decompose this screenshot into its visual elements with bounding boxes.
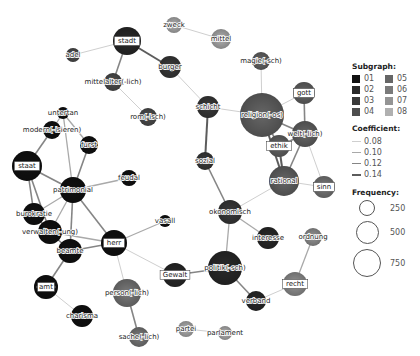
node-label: interesse bbox=[252, 234, 284, 242]
node-modern[interactable]: modern(-isieren) bbox=[23, 121, 82, 139]
node-label: Gewalt bbox=[163, 271, 188, 279]
legend-panel: Subgraph: 0105020603070408 Coefficient: … bbox=[352, 62, 420, 282]
node-adel[interactable]: adel bbox=[66, 48, 81, 62]
coefficient-legend-item: 0.12 bbox=[352, 158, 420, 169]
frequency-circle-sample bbox=[353, 249, 381, 277]
node-label: furst bbox=[81, 141, 97, 149]
frequency-label: 500 bbox=[390, 228, 405, 237]
node-label: verwalten(-ung) bbox=[22, 228, 78, 236]
subgraph-label: 04 bbox=[364, 107, 374, 116]
node-recht[interactable]: recht bbox=[282, 272, 308, 296]
node-verband[interactable]: verband bbox=[242, 291, 271, 311]
node-sozial[interactable]: sozial bbox=[195, 152, 215, 170]
frequency-legend-item: 500 bbox=[352, 221, 420, 244]
node-label: sinn bbox=[317, 183, 331, 191]
node-sache[interactable]: sache(-lich) bbox=[119, 327, 160, 347]
coefficient-legend-item: 0.10 bbox=[352, 147, 420, 158]
node-feudal[interactable]: feudal bbox=[118, 170, 140, 186]
node-label: schicht bbox=[196, 103, 221, 111]
node-mittel[interactable]: mittel bbox=[211, 29, 232, 49]
node-label: gott bbox=[297, 89, 311, 97]
node-gott[interactable]: gott bbox=[293, 82, 315, 104]
node-label: recht bbox=[286, 280, 304, 288]
coefficient-legend-item: 0.08 bbox=[352, 136, 420, 147]
node-label: rom(-isch) bbox=[130, 113, 166, 121]
node-label: person(-lich) bbox=[105, 289, 149, 297]
node-label: zweck bbox=[163, 21, 186, 29]
subgraph-legend-item-04: 04 bbox=[352, 107, 385, 116]
node-zweck[interactable]: zweck bbox=[163, 17, 186, 33]
node-staat[interactable]: staat bbox=[12, 151, 42, 181]
coefficient-line-sample bbox=[352, 152, 361, 153]
node-charisma[interactable]: charisma bbox=[66, 305, 98, 327]
node-person[interactable]: person(-lich) bbox=[105, 279, 149, 307]
node-label: amt bbox=[39, 283, 53, 291]
subgraph-legend-item-08: 08 bbox=[385, 107, 418, 116]
node-magie[interactable]: magie(-sch) bbox=[240, 52, 282, 70]
subgraph-label: 06 bbox=[397, 85, 407, 94]
node-gewalt[interactable]: Gewalt bbox=[160, 263, 190, 287]
frequency-circle-sample bbox=[359, 200, 375, 216]
node-label: staat bbox=[18, 162, 36, 170]
frequency-legend-item: 250 bbox=[352, 200, 420, 216]
node-burger[interactable]: burger bbox=[158, 56, 181, 78]
node-label: verband bbox=[242, 297, 271, 305]
node-label: religion(-os) bbox=[241, 111, 283, 119]
node-sinn[interactable]: sinn bbox=[313, 176, 335, 198]
node-label: sozial bbox=[195, 157, 215, 165]
subgraph-label: 02 bbox=[364, 85, 374, 94]
node-partei[interactable]: partei bbox=[176, 321, 197, 337]
frequency-legend-title: Frequency: bbox=[352, 188, 420, 197]
subgraph-swatch bbox=[352, 86, 360, 94]
node-label: politik(-sch) bbox=[204, 264, 246, 272]
coefficient-legend: 0.080.100.120.14 bbox=[352, 136, 420, 180]
nodes-layer: stadtadelmittelalter(-lich)burgerzweckmi… bbox=[12, 17, 335, 347]
node-label: parlament bbox=[207, 329, 243, 337]
node-furst[interactable]: furst bbox=[80, 136, 98, 154]
coefficient-line-sample bbox=[352, 174, 361, 176]
node-label: ethik bbox=[270, 142, 288, 150]
frequency-legend-item: 750 bbox=[352, 249, 420, 277]
subgraph-swatch bbox=[352, 97, 360, 105]
subgraph-swatch bbox=[385, 108, 393, 116]
node-label: sache(-lich) bbox=[119, 333, 160, 341]
subgraph-legend-item-03: 03 bbox=[352, 96, 385, 105]
node-label: mittel bbox=[211, 35, 232, 43]
node-label: modern(-isieren) bbox=[23, 126, 82, 134]
subgraph-legend-item-06: 06 bbox=[385, 85, 418, 94]
subgraph-legend-item-02: 02 bbox=[352, 85, 385, 94]
subgraph-swatch bbox=[385, 97, 393, 105]
node-stadt[interactable]: stadt bbox=[113, 27, 141, 55]
coefficient-label: 0.14 bbox=[364, 170, 382, 179]
node-label: untertan bbox=[48, 109, 78, 117]
node-welt[interactable]: welt(-lich) bbox=[288, 121, 323, 147]
subgraph-swatch bbox=[385, 86, 393, 94]
node-label: adel bbox=[66, 51, 81, 59]
node-parlament[interactable]: parlament bbox=[207, 326, 243, 340]
subgraph-swatch bbox=[385, 75, 393, 83]
node-label: herr bbox=[107, 239, 121, 247]
subgraph-swatch bbox=[352, 108, 360, 116]
node-politik[interactable]: politik(-sch) bbox=[204, 251, 246, 285]
node-label: vasall bbox=[155, 217, 175, 225]
subgraph-label: 05 bbox=[397, 74, 407, 83]
node-ordnung[interactable]: ordnung bbox=[298, 228, 327, 246]
node-rational[interactable]: rational bbox=[269, 166, 299, 196]
coefficient-label: 0.10 bbox=[364, 148, 382, 157]
node-untertan[interactable]: untertan bbox=[48, 107, 78, 119]
node-herr[interactable]: herr bbox=[101, 230, 127, 256]
frequency-circle-sample bbox=[356, 221, 379, 244]
node-label: welt(-lich) bbox=[288, 130, 323, 138]
node-label: okonomisch bbox=[209, 208, 251, 216]
node-religion[interactable]: religion(-os) bbox=[240, 93, 284, 137]
node-schicht[interactable]: schicht bbox=[196, 96, 221, 118]
node-vasall[interactable]: vasall bbox=[155, 215, 175, 227]
node-label: magie(-sch) bbox=[240, 57, 282, 65]
node-rom[interactable]: rom(-isch) bbox=[130, 108, 166, 126]
node-label: charisma bbox=[66, 312, 98, 320]
node-label: feudal bbox=[118, 174, 140, 182]
node-mittelalter[interactable]: mittelalter(-lich) bbox=[85, 73, 142, 91]
node-amt[interactable]: amt bbox=[34, 275, 58, 299]
coefficient-label: 0.08 bbox=[364, 137, 382, 146]
node-label: mittelalter(-lich) bbox=[85, 78, 142, 86]
